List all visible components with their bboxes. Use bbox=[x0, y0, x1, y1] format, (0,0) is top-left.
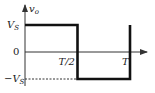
square-wave-chart: vo VS 0 −VS T/2 T bbox=[0, 0, 155, 93]
y-tick-label-vs: VS bbox=[7, 19, 19, 32]
y-axis-label: vo bbox=[29, 3, 39, 16]
y-tick-label-neg-vs: −VS bbox=[4, 73, 25, 86]
y-tick-label-zero: 0 bbox=[13, 46, 19, 57]
x-tick-label-half-period: T/2 bbox=[59, 56, 75, 67]
